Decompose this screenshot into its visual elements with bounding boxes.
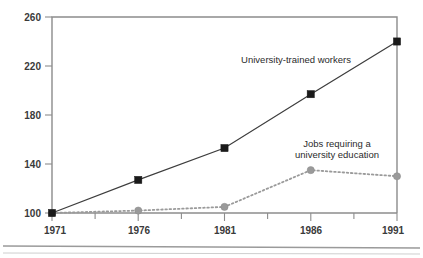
series-b-marker: [221, 203, 228, 210]
series-a-marker: [221, 144, 228, 151]
x-tick-label-1981: 1981: [214, 225, 237, 236]
x-tick-label-1991: 1991: [382, 225, 405, 236]
line-chart: 100 140 180 220 260 1971 1976 1981 1986 …: [0, 0, 423, 258]
series-b-marker: [135, 207, 142, 214]
annotation-jobs-requiring-line-1: Jobs requiring a: [303, 138, 371, 149]
y-tick-label-220: 220: [24, 61, 41, 72]
series-a-marker: [393, 38, 400, 45]
annotation-university-trained-workers: University-trained workers: [241, 54, 351, 65]
annotation-jobs-requiring-line-2: university education: [295, 149, 379, 160]
chart-background: [0, 0, 423, 258]
series-a-marker: [48, 209, 55, 216]
y-tick-label-140: 140: [24, 159, 41, 170]
y-tick-label-100: 100: [24, 208, 41, 219]
y-tick-label-180: 180: [24, 110, 41, 121]
x-tick-label-1971: 1971: [44, 225, 67, 236]
y-tick-label-260: 260: [24, 12, 41, 23]
x-tick-label-1976: 1976: [128, 225, 151, 236]
series-a-marker: [307, 91, 314, 98]
series-b-marker: [393, 173, 400, 180]
x-tick-label-1986: 1986: [300, 225, 323, 236]
chart-figure: 100 140 180 220 260 1971 1976 1981 1986 …: [0, 0, 423, 258]
series-a-marker: [135, 176, 142, 183]
series-b-marker: [307, 167, 314, 174]
